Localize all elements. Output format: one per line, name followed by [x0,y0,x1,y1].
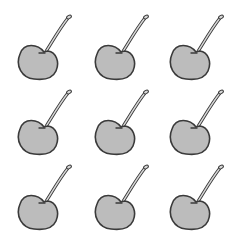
cherry-icon [89,85,159,157]
cherry-icon [89,160,159,232]
cherry-icon [12,10,82,82]
cherry-icon [12,85,82,157]
cherry-icon [89,10,159,82]
cherry-icon [164,160,234,232]
cherry-icon [164,85,234,157]
cherry-icon [164,10,234,82]
cherry-icon [12,160,82,232]
cherry-grid [0,0,237,237]
